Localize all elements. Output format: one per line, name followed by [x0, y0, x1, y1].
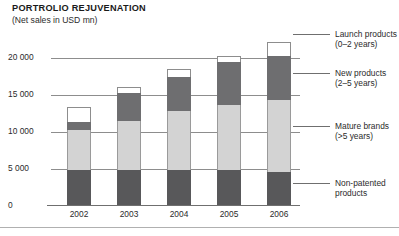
bar-2003[interactable] [117, 87, 141, 205]
legend-label-secondary: (>5 years) [335, 131, 389, 141]
y-tick-label: 20 000 [8, 52, 52, 62]
x-tick-label: 2002 [57, 209, 101, 219]
x-tick-label: 2006 [257, 209, 301, 219]
legend-item-new: New products(2–5 years) [335, 68, 386, 89]
legend-label-secondary: products [335, 188, 386, 198]
footer-divider [0, 227, 399, 228]
chart-root: PORTROLIO REJUVENATION (Net sales in USD… [0, 0, 399, 236]
bar-segment-nonpat [67, 170, 91, 205]
bar-segment-newp [67, 122, 91, 130]
bar-2006[interactable] [267, 42, 291, 205]
y-tick-label: 0 [8, 200, 52, 210]
bar-segment-newp [167, 77, 191, 111]
legend-leader-line-mature [293, 126, 330, 127]
bar-segment-mature [117, 121, 141, 171]
chart-title: PORTROLIO REJUVENATION [12, 3, 146, 13]
bar-segment-newp [117, 93, 141, 120]
y-tick-label: 15 000 [8, 89, 52, 99]
legend-label-primary: Launch products [335, 29, 397, 39]
bar-segment-nonpat [217, 170, 241, 205]
bar-segment-newp [217, 62, 241, 104]
bar-segment-nonpat [267, 172, 291, 205]
legend-label-secondary: (2–5 years) [335, 78, 386, 88]
legend-leader-line-new [293, 73, 330, 74]
plot-area [51, 40, 300, 206]
legend-label-primary: New products [335, 68, 386, 78]
legend-label-secondary: (0–2 years) [335, 39, 397, 49]
chart-subtitle: (Net sales in USD mn) [12, 15, 97, 25]
bar-segment-launch [167, 69, 191, 77]
bar-segment-mature [167, 111, 191, 170]
x-tick-label: 2005 [207, 209, 251, 219]
x-tick-label: 2004 [157, 209, 201, 219]
bar-segment-launch [67, 107, 91, 123]
bar-segment-mature [267, 100, 291, 172]
x-axis-line [47, 205, 300, 206]
legend-label-primary: Mature brands [335, 121, 389, 131]
bar-segment-nonpat [117, 170, 141, 205]
legend-leader-line-launch [293, 34, 330, 35]
bar-segment-mature [67, 130, 91, 170]
y-axis-labels: 05 00010 00015 00020 000 [8, 40, 52, 206]
x-tick-label: 2003 [107, 209, 151, 219]
y-tick-label: 10 000 [8, 126, 52, 136]
y-tick-label: 5 000 [8, 163, 52, 173]
bar-segment-launch [267, 42, 291, 56]
legend-leader-line-nonpatented [293, 183, 330, 184]
legend-item-nonpatented: Non-patentedproducts [335, 178, 386, 199]
bar-segment-nonpat [167, 170, 191, 205]
bar-segment-newp [267, 56, 291, 100]
gridline-20000 [51, 58, 300, 59]
legend-item-mature: Mature brands(>5 years) [335, 121, 389, 142]
bar-segment-mature [217, 105, 241, 171]
bar-2005[interactable] [217, 56, 241, 205]
bar-2002[interactable] [67, 107, 91, 205]
legend-item-launch: Launch products(0–2 years) [335, 29, 397, 50]
bar-2004[interactable] [167, 69, 191, 205]
legend-label-primary: Non-patented [335, 178, 386, 188]
